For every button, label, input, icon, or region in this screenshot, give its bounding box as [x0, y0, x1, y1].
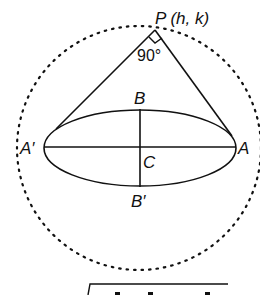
label-vertex-b-prime: B′: [131, 192, 146, 211]
label-center-c: C: [143, 153, 156, 172]
label-vertex-b: B: [134, 89, 145, 108]
label-point-p: P (h, k): [155, 9, 209, 28]
label-angle: 90°: [137, 47, 161, 64]
diagram-canvas: P (h, k) 90° B A′ A C B′: [0, 0, 260, 295]
tangent-line-right: [155, 30, 232, 136]
label-vertex-a: A: [237, 139, 249, 158]
label-vertex-a-prime: A′: [19, 139, 35, 158]
